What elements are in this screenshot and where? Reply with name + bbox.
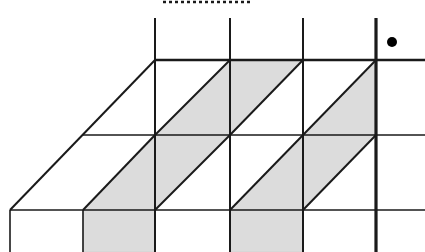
shade-foot-2 — [230, 210, 303, 252]
lattice-diagram — [0, 0, 425, 252]
shade-foot-1 — [83, 210, 155, 252]
figure-container — [0, 0, 425, 252]
lattice-point-dot — [387, 37, 397, 47]
